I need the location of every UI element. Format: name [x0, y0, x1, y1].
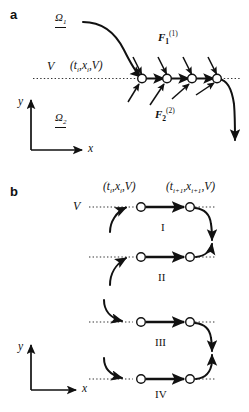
figure-vector-layer: [0, 0, 249, 412]
node-b-4-right: [186, 375, 195, 384]
entry-curve-b-2: [110, 258, 126, 285]
state-tuple-b-i-v: V: [125, 180, 132, 192]
force-arrow-lower-3: [172, 84, 189, 99]
state-tuple-b-i1-close: ): [211, 180, 215, 192]
force-arrow-upper-3: [183, 57, 192, 74]
node-b-3-left: [137, 318, 146, 327]
force-2-superscript: (2): [166, 106, 175, 115]
transition-curve-b-1: [195, 208, 212, 240]
row-numeral-4: IV: [155, 389, 167, 400]
v-label-b: V: [73, 200, 80, 212]
domain-label-omega-1: Ω1: [55, 12, 66, 28]
force-arrow-upper-2: [158, 57, 167, 74]
entry-curve-b-3: [104, 300, 122, 321]
node-b-2-right: [186, 253, 195, 262]
node-a-4: [213, 74, 222, 83]
panel-label-b: b: [10, 185, 18, 198]
node-a-3: [188, 74, 197, 83]
force-label-1: F1(1): [158, 30, 178, 45]
row-numeral-1: I: [161, 222, 165, 233]
node-a-1: [138, 74, 147, 83]
state-tuple-b-i: (ti,xi,V): [103, 181, 136, 195]
node-b-2-left: [137, 253, 146, 262]
outgoing-trajectory-a: [219, 79, 235, 140]
transition-curve-b-4: [196, 355, 212, 379]
state-tuple-b-i-close: ): [132, 180, 136, 192]
state-tuple-a-v: V: [92, 59, 99, 71]
node-b-1-left: [137, 203, 146, 212]
omega-2-symbol: Ω: [55, 111, 63, 123]
node-a-2: [163, 74, 172, 83]
transition-curve-b-2: [196, 244, 212, 257]
panel-label-a: a: [10, 8, 17, 21]
transition-curve-b-3: [195, 323, 212, 351]
state-tuple-a-close: ): [99, 59, 103, 71]
force-arrow-lower-1: [128, 84, 139, 102]
force-1-subscript: 1: [165, 37, 169, 46]
force-arrow-lower-4: [196, 83, 214, 95]
axis-label-y-a: y: [18, 96, 23, 108]
state-tuple-b-i-x-sub: i: [120, 187, 122, 195]
v-label-a: V: [47, 60, 54, 72]
state-tuple-b-i-plus-1: (ti+1,xi+1,V): [166, 181, 215, 195]
node-b-1-right: [186, 203, 195, 212]
axis-label-x-a: x: [88, 143, 93, 155]
row-numeral-3: III: [155, 337, 166, 348]
entry-curve-b-4: [104, 358, 122, 378]
row-numeral-2: II: [158, 272, 165, 283]
state-tuple-b-i1-t-sub: i+1: [173, 187, 183, 195]
omega-1-subscript: 1: [63, 18, 67, 26]
omega-2-subscript: 2: [63, 118, 67, 126]
figure-container: a Ω1 Ω2 V (ti,xi,V) F1(1) F2(2) y x b V …: [0, 0, 249, 412]
panel-a-graphics: [31, 22, 240, 150]
force-label-2: F2(2): [155, 107, 175, 122]
force-1-superscript: (1): [169, 29, 178, 38]
force-2-subscript: 2: [162, 114, 166, 123]
axis-label-x-b: x: [82, 383, 87, 395]
state-tuple-b-i1-x-sub: i+1: [191, 187, 201, 195]
node-b-3-right: [186, 318, 195, 327]
state-tuple-a: (ti,xi,V): [70, 60, 103, 74]
force-arrow-lower-2: [150, 84, 164, 105]
axis-label-y-b: y: [18, 341, 23, 353]
omega-1-symbol: Ω: [55, 11, 63, 23]
state-tuple-b-i-t-sub: i: [110, 187, 112, 195]
entry-curve-b-1: [110, 208, 126, 233]
node-b-4-left: [137, 375, 146, 384]
panel-b-graphics: [31, 203, 215, 390]
domain-label-omega-2: Ω2: [55, 112, 66, 128]
force-arrow-upper-4: [208, 57, 217, 74]
